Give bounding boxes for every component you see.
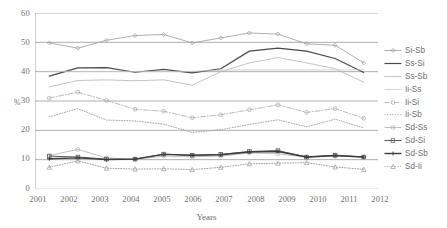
y-tick-label: 20: [8, 125, 30, 134]
legend-item: Ss-Si: [384, 57, 447, 70]
legend-swatch-ss-si: [384, 58, 402, 69]
legend-swatch-ss-sb: [384, 71, 402, 82]
chart-figure: 60 50 40 30 20 10 0 % 2001 2002 2003 200…: [0, 0, 447, 228]
legend-label: Si-Sb: [402, 46, 425, 55]
x-tick-label: 2012: [360, 195, 400, 204]
legend-item: Sd-Ss: [384, 121, 447, 134]
legend-label: Ss-Sb: [402, 72, 427, 81]
legend-swatch-ii-sb: [384, 109, 402, 120]
legend-item: Si-Sb: [384, 44, 447, 57]
legend-swatch-si-sb: [384, 45, 402, 56]
legend-label: Ii-Sb: [402, 110, 422, 119]
legend-swatch-sd-si: [384, 135, 402, 146]
legend-item: Ss-Sb: [384, 70, 447, 83]
x-axis-label: Years: [0, 212, 413, 222]
legend-item: Sd-Si: [384, 134, 447, 147]
legend-swatch-sd-sb: [384, 148, 402, 159]
chart-lines: [35, 13, 378, 189]
legend-item: Sd-Ii: [384, 160, 447, 173]
legend-item: Ii-Sb: [384, 108, 447, 121]
y-tick-label: 40: [8, 67, 30, 76]
legend-swatch-sd-ii: [384, 161, 402, 172]
y-axis-label: %: [14, 98, 20, 107]
legend-label: Sd-Ii: [402, 162, 422, 171]
legend-label: Ii-Si: [402, 98, 419, 107]
legend-item: Ii-Ss: [384, 83, 447, 96]
y-tick-label: 50: [8, 38, 30, 47]
legend-label: Ii-Ss: [402, 85, 421, 94]
legend-swatch-sd-ss: [384, 122, 402, 133]
plot-area: [35, 13, 378, 189]
legend-label: Sd-Ss: [402, 123, 427, 132]
legend-label: Ss-Si: [402, 59, 425, 68]
legend-item: Sd-Sb: [384, 147, 447, 160]
chart-legend: Si-Sb Ss-Si Ss-Sb Ii-Ss Ii-Si Ii-Sb Sd-S…: [384, 44, 447, 173]
y-tick-label: 0: [8, 184, 30, 193]
y-tick-label: 60: [8, 9, 30, 18]
legend-item: Ii-Si: [384, 96, 447, 109]
legend-label: Sd-Si: [402, 136, 425, 145]
y-tick-label: 10: [8, 154, 30, 163]
legend-swatch-ii-ss: [384, 84, 402, 95]
legend-swatch-ii-si: [384, 97, 402, 108]
legend-label: Sd-Sb: [402, 149, 428, 158]
